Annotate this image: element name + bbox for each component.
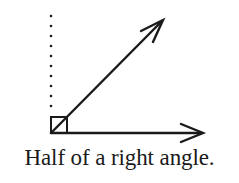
- diagonal-ray: [51, 20, 163, 133]
- figure-caption: Half of a right angle.: [0, 145, 239, 171]
- horizontal-ray: [51, 124, 203, 142]
- dotted-vertical-line: [50, 15, 53, 108]
